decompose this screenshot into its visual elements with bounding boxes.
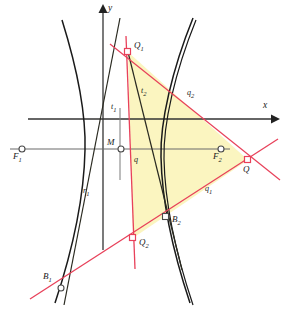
- point-label-B2: B2: [172, 215, 181, 226]
- marker-B1: [58, 285, 64, 291]
- line-label-q2: q2: [187, 89, 194, 99]
- line-label-q: q: [134, 156, 138, 166]
- line-label-t2: t2: [141, 87, 146, 97]
- y-axis-arrowhead: [99, 4, 108, 13]
- point-label-Q1: Q1: [134, 41, 144, 52]
- point-label-M: M: [107, 138, 115, 149]
- x-axis-label: x: [263, 101, 267, 111]
- marker-Q2: [130, 235, 136, 241]
- triangle-fill-Q1-Q2-Q: [128, 52, 248, 238]
- marker-Q: [245, 157, 251, 163]
- line-label-r1: r1: [83, 187, 89, 197]
- marker-Q1: [125, 49, 131, 55]
- line-label-q1: q1: [205, 185, 212, 195]
- tangent-line-t1: [64, 18, 120, 305]
- point-label-Q2: Q2: [139, 238, 149, 249]
- point-label-B1: B1: [43, 272, 52, 283]
- line-label-t1: t1: [111, 103, 116, 113]
- point-label-F1: F1: [13, 152, 22, 163]
- marker-B2: [163, 214, 169, 220]
- hyperbola-left-branch: [55, 20, 85, 303]
- diagram-canvas: y x Q1 Q2 Q B1 B2 M F1 F2 t1 t2 q q1 q2 …: [0, 0, 285, 317]
- marker-M: [118, 146, 124, 152]
- y-axis-label: y: [108, 4, 112, 14]
- point-label-F2: F2: [213, 152, 222, 163]
- x-axis-arrowhead: [271, 115, 280, 124]
- point-label-Q: Q: [243, 165, 250, 176]
